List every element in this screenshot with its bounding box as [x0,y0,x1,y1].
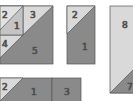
label-4: 4 [2,39,8,49]
block-c: 8 7 [110,6,133,93]
label-2: 2 [2,82,8,92]
label-3: 3 [30,10,36,20]
label-7: 7 [127,82,133,92]
label-1: 1 [14,21,20,31]
label-1: 1 [82,42,88,52]
block-b: 2 1 [67,6,95,64]
label-5: 5 [32,46,38,56]
label-8: 8 [122,20,128,30]
label-3: 3 [64,87,70,97]
quilt-piecing-diagram: 2 1 3 4 5 2 1 8 7 2 1 3 [0,0,133,101]
label-2: 2 [72,10,78,20]
label-2: 2 [2,10,8,20]
block-d: 2 1 3 [0,78,81,101]
label-1: 1 [31,87,37,97]
block-a: 2 1 3 4 5 [0,6,53,64]
